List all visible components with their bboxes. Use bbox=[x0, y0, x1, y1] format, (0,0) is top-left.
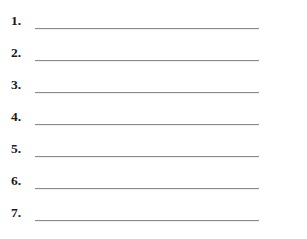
list-item: 6. bbox=[11, 164, 259, 190]
list-item-rule bbox=[35, 220, 259, 221]
numbered-list: 1. 2. 3. 4. 5. 6. bbox=[0, 0, 307, 239]
list-item: 4. bbox=[11, 100, 259, 126]
numbered-list-page: 1. 2. 3. 4. 5. 6. bbox=[0, 0, 307, 239]
list-item-number: 1. bbox=[11, 14, 31, 31]
list-item-number: 3. bbox=[11, 78, 31, 95]
list-item: 3. bbox=[11, 68, 259, 94]
list-item: 5. bbox=[11, 132, 259, 158]
list-item: 2. bbox=[11, 36, 259, 62]
list-item-number: 5. bbox=[11, 142, 31, 159]
list-item-rule bbox=[35, 124, 259, 125]
list-item-rule bbox=[35, 188, 259, 189]
list-item-rule bbox=[35, 60, 259, 61]
list-item: 1. bbox=[11, 4, 259, 30]
list-item-number: 4. bbox=[11, 110, 31, 127]
list-item: 7. bbox=[11, 196, 259, 222]
list-item-rule bbox=[35, 156, 259, 157]
list-item-rule bbox=[35, 28, 259, 29]
list-item-rule bbox=[35, 92, 259, 93]
list-item-number: 7. bbox=[11, 206, 31, 223]
list-item-number: 6. bbox=[11, 174, 31, 191]
list-item-number: 2. bbox=[11, 46, 31, 63]
